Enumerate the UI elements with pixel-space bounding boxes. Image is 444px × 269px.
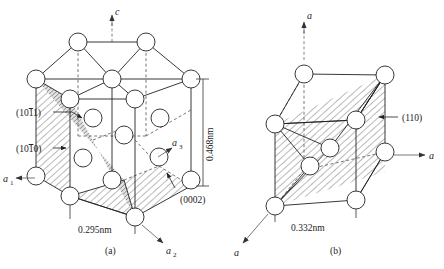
svg-text:2: 2 — [173, 251, 177, 259]
atom — [150, 148, 168, 166]
b-dimension-line — [275, 209, 356, 222]
atom — [126, 90, 144, 108]
svg-text:a: a — [172, 137, 177, 148]
b-a-axis-diagonal — [243, 214, 268, 243]
a3-axis-label: a 3 — [172, 137, 183, 151]
atom — [74, 149, 92, 167]
atom — [84, 109, 102, 127]
hcp-atoms-middle — [84, 109, 169, 144]
atom — [376, 143, 394, 161]
atom — [61, 90, 79, 108]
atom — [103, 171, 121, 189]
svg-text:a: a — [3, 173, 8, 184]
crystal-structure-figure: c (1011) (1010) (0002) a 1 a 2 a 3 — [0, 0, 444, 269]
panel-a-caption: (a) — [105, 246, 116, 257]
atom — [151, 109, 169, 127]
a-parameter-label-b: 0.332nm — [291, 223, 325, 233]
pyramidal-close: ) — [38, 108, 41, 119]
svg-text:a: a — [166, 245, 171, 256]
figure-svg: c (1011) (1010) (0002) a 1 a 2 a 3 — [0, 0, 444, 269]
atom — [301, 157, 319, 175]
atom — [347, 111, 365, 129]
atom — [69, 33, 87, 51]
c-axis-label: c — [115, 6, 120, 17]
atom — [266, 115, 284, 133]
b-a-axis-vertical-label: a — [307, 10, 312, 21]
panel-a-group — [16, 15, 209, 243]
panel-b-caption: (b) — [330, 246, 341, 257]
svg-text:3: 3 — [179, 143, 183, 151]
atom — [103, 70, 121, 88]
a-parameter-label-a: 0.295nm — [78, 225, 112, 235]
atom — [266, 197, 284, 215]
bcc-110-label: (110) — [402, 113, 422, 124]
atom — [376, 66, 394, 84]
atom — [321, 139, 339, 157]
atom — [27, 70, 45, 88]
b-a-axis-diagonal-label: a — [234, 247, 239, 258]
b-a-axis-horizontal-label: a — [429, 150, 434, 161]
pyramidal-plane-label: (1011) — [16, 108, 41, 119]
panel-b-group — [243, 22, 425, 243]
svg-text:(1011): (1011) — [16, 108, 41, 119]
svg-text:1: 1 — [10, 179, 14, 187]
prismatic-plane-label: (1010) — [16, 144, 41, 155]
prismatic-close: ) — [38, 144, 41, 155]
atom — [295, 65, 313, 83]
atom — [126, 208, 144, 226]
a1-axis-label: a 1 — [3, 173, 14, 187]
atom — [61, 187, 79, 205]
atom — [347, 191, 365, 209]
atom — [27, 167, 45, 185]
atom — [115, 126, 133, 144]
basal-plane-label: (0002) — [180, 195, 205, 206]
c-parameter-label: 0.468nm — [205, 127, 215, 161]
a2-axis-label: a 2 — [166, 245, 177, 259]
svg-text:(1010): (1010) — [16, 144, 41, 155]
atom — [137, 33, 155, 51]
a2-axis — [142, 225, 163, 243]
